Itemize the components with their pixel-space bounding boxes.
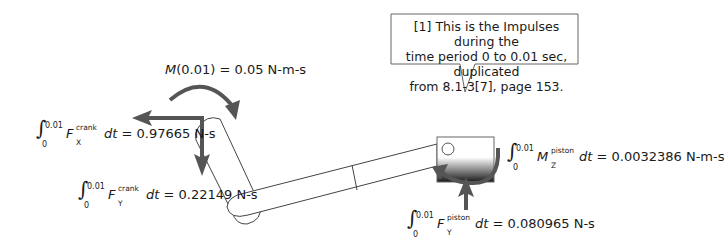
crank-fx-value: = 0.97665 N-s	[122, 126, 216, 141]
moment-symbol: M	[165, 62, 176, 77]
piston-fy-value: = 0.080965 N-s	[493, 216, 595, 231]
integral-icon: ∫ 0.01 0	[78, 184, 108, 206]
integral-icon: ∫ 0.01 0	[407, 213, 437, 235]
crank-moment-arrow	[170, 87, 240, 120]
callout-text: [1] This is the Impulses during the time…	[391, 17, 582, 96]
callout-line-1: [1] This is the Impulses during the	[394, 19, 579, 49]
integral-icon: ∫ 0.01 0	[507, 146, 537, 168]
crank-fy-value: = 0.22149 N-s	[164, 187, 258, 202]
integral-icon: ∫ 0.01 0	[36, 123, 66, 145]
crank-moment-label: M(0.01) = 0.05 N-m-s	[165, 62, 306, 78]
piston-mz-label: ∫ 0.01 0 M piston Z dt = 0.0032386 N-m-s	[507, 146, 725, 168]
moment-argument: (0.01)	[176, 62, 215, 77]
callout-line-2: time period 0 to 0.01 sec, duplicated	[394, 49, 579, 79]
callout-line-3: from 8.1-3[7], page 153.	[394, 79, 579, 94]
piston-fy-label: ∫ 0.01 0 F piston Y dt = 0.080965 N-s	[407, 213, 595, 235]
piston-pin	[442, 143, 454, 155]
moment-value: = 0.05 N-m-s	[219, 62, 306, 77]
crank-fy-label: ∫ 0.01 0 F crank Y dt = 0.22149 N-s	[78, 184, 258, 206]
crank-fx-label: ∫ 0.01 0 F crank X dt = 0.97665 N-s	[36, 123, 216, 145]
piston-mz-value: = 0.0032386 N-m-s	[597, 149, 725, 164]
connecting-rod	[227, 144, 437, 216]
